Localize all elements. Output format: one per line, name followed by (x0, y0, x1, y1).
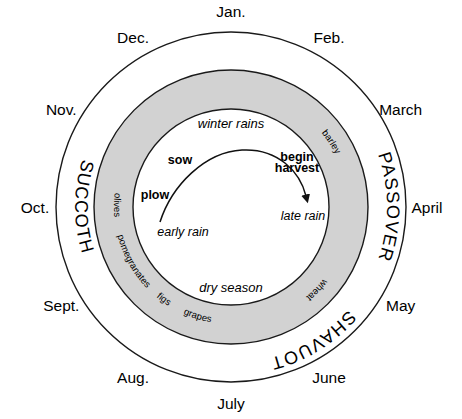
month-label-dec: Dec. (117, 29, 149, 46)
month-label-feb: Feb. (313, 29, 344, 46)
agricultural-year-diagram: Jan.Feb.MarchAprilMayJuneJulyAug.Sept.Oc… (0, 0, 462, 419)
month-label-july: July (217, 395, 245, 412)
diagram-canvas: Jan.Feb.MarchAprilMayJuneJulyAug.Sept.Oc… (0, 0, 462, 419)
month-label-jan: Jan. (216, 3, 245, 20)
inner-label-early-rain: early rain (157, 225, 208, 239)
season-label-dry-season: dry season (199, 280, 263, 295)
month-label-aug: Aug. (117, 369, 149, 386)
month-label-oct: Oct. (21, 199, 49, 216)
month-label-march: March (379, 101, 422, 118)
inner-circle (133, 109, 329, 305)
month-label-may: May (386, 297, 416, 314)
inner-label-harvest: harvest (275, 161, 320, 175)
month-label-nov: Nov. (46, 101, 77, 118)
month-label-sept: Sept. (43, 297, 79, 314)
season-label-winter-rains: winter rains (198, 116, 265, 131)
crop-label-olives: olives (112, 193, 124, 218)
inner-label-late-rain: late rain (281, 209, 326, 223)
inner-label-plow: plow (141, 188, 170, 202)
ring-group (56, 32, 406, 382)
month-label-june: June (312, 369, 346, 386)
month-label-april: April (411, 199, 442, 216)
inner-label-sow: sow (168, 153, 193, 167)
